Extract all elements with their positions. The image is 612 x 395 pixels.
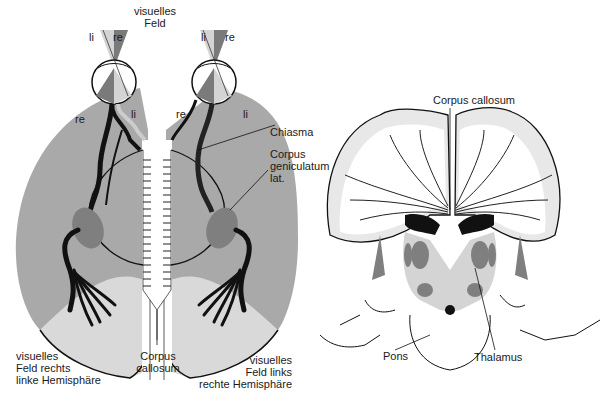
thalamus-label: Thalamus (474, 351, 522, 363)
label-line: Feld links (190, 366, 292, 378)
lgn-label: Corpus geniculatum lat. (270, 148, 329, 184)
label-line: Corpus (130, 350, 186, 362)
left-eye-retina-re-label: re (75, 113, 85, 125)
right-eye-retina-re-label: re (176, 108, 186, 120)
label-line: visuelles (16, 350, 101, 362)
pons-label: Pons (383, 350, 408, 362)
left-eye-retina-li-label: li (131, 108, 136, 120)
right-eye-retina-li-label: li (243, 108, 248, 120)
right-eye-field-left-label: li (201, 31, 206, 43)
left-eye-field-right-label: re (113, 31, 123, 43)
right-eye-field-right-label: re (225, 31, 235, 43)
label-line: Feld rechts (16, 362, 101, 374)
label-line: lat. (270, 172, 329, 184)
visual-field-right-label: visuelles Feld rechts linke Hemisphäre (16, 350, 101, 386)
visual-pathway-diagram (0, 0, 612, 395)
label-line: rechte Hemisphäre (190, 378, 292, 390)
label-line: visuelles (130, 5, 180, 17)
visual-field-label: visuelles Feld (130, 5, 180, 29)
left-eye-field-left-label: li (89, 31, 94, 43)
label-line: linke Hemisphäre (16, 374, 101, 386)
label-line: visuelles (190, 354, 292, 366)
visual-field-left-label: visuelles Feld links rechte Hemisphäre (190, 354, 292, 390)
coronal-section (320, 108, 600, 370)
corpus-callosum-left-label: Corpus callosum (130, 350, 186, 374)
label-line: callosum (130, 362, 186, 374)
chiasma-label: Chiasma (270, 126, 313, 138)
label-line: geniculatum (270, 160, 329, 172)
label-line: Feld (130, 17, 180, 29)
label-line: Corpus (270, 148, 329, 160)
corpus-callosum-right-label: Corpus callosum (433, 94, 515, 106)
